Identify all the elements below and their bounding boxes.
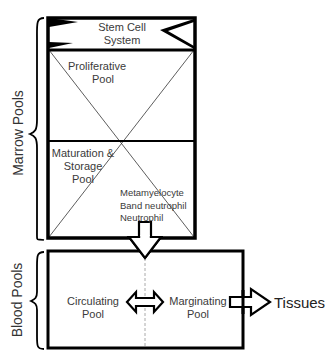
cell-type-band-neutrophil: Band neutrophil — [120, 200, 187, 213]
proliferative-pool-label: Proliferative Pool — [62, 60, 132, 86]
marginating-line2: Pool — [165, 308, 231, 321]
marginating-line1: Marginating — [165, 295, 231, 308]
cell-type-neutrophil: Neutrophil — [120, 212, 187, 225]
arrow-to-tissues — [230, 289, 270, 315]
stem-cell-line2: System — [92, 34, 152, 47]
maturation-line2: Storage — [50, 160, 116, 173]
circulating-pool-label: Circulating Pool — [60, 295, 126, 321]
stem-cell-line1: Stem Cell — [92, 21, 152, 34]
marrow-brace — [30, 18, 44, 240]
cell-type-metamyelocyte: Metamyelocyte — [120, 187, 187, 200]
maturation-line3: Pool — [50, 173, 116, 186]
marginating-pool-label: Marginating Pool — [165, 295, 231, 321]
maturation-pool-label: Maturation & Storage Pool — [50, 147, 116, 186]
proliferative-line2: Pool — [62, 73, 132, 86]
circulating-line2: Pool — [60, 308, 126, 321]
proliferative-line1: Proliferative — [62, 60, 132, 73]
tissues-label: Tissues — [274, 294, 325, 311]
circulating-line1: Circulating — [60, 295, 126, 308]
stem-cell-label: Stem Cell System — [92, 21, 152, 47]
cell-types-list: Metamyelocyte Band neutrophil Neutrophil — [120, 187, 187, 225]
maturation-line1: Maturation & — [50, 147, 116, 160]
marrow-pools-label: Marrow Pools — [10, 83, 26, 183]
blood-pools-label: Blood Pools — [9, 255, 25, 345]
blood-brace — [31, 252, 44, 349]
